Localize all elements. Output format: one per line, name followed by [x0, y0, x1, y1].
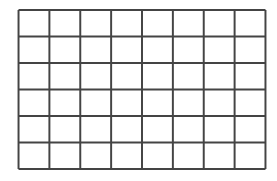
grid-lines — [17, 9, 267, 170]
grid-diagram — [17, 9, 267, 170]
